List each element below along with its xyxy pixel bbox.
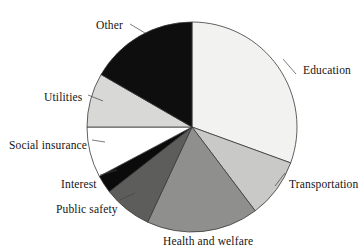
pie-label-other: Other [96,19,123,31]
pie-label-public-safety: Public safety [56,203,118,215]
leader-line-other [130,24,145,33]
pie-chart-figure: EducationTransportationHealth and welfar… [0,0,361,251]
pie-label-utilities: Utilities [44,91,82,103]
pie-label-interest: Interest [61,178,97,190]
pie-label-health-and-welfare: Health and welfare [163,235,253,247]
pie-label-education: Education [303,64,351,76]
pie-label-social-insurance: Social insurance [9,139,87,151]
pie-label-transportation: Transportation [289,178,358,190]
pie-chart-canvas [0,0,361,251]
leader-line-education [283,59,296,74]
